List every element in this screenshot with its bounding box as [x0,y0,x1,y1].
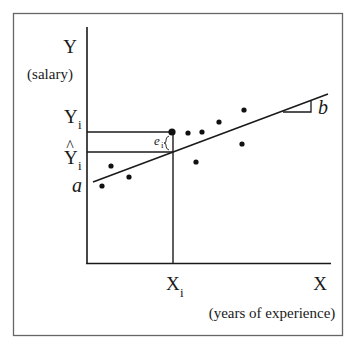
observed-point-i [168,128,175,135]
predicted-y-label: Y [64,147,78,168]
predicted-y-subscript: i [78,158,82,173]
data-point [239,141,244,146]
data-point [199,129,204,134]
x-axis-sublabel: (years of experience) [209,305,336,322]
data-point [193,159,198,164]
data-point [99,183,104,188]
data-point [126,174,131,179]
observed-y-label: Y [64,106,78,127]
data-point [108,163,113,168]
data-point [241,107,246,112]
x-axis-label: X [313,273,327,294]
residual-subscript: i [161,140,164,150]
slope-label: b [318,96,328,118]
observed-y-subscript: i [78,117,82,132]
data-point [185,130,190,135]
intercept-label: a [72,174,82,196]
regression-line [93,94,328,182]
residual-brace [164,136,169,150]
residual-label: e [154,133,160,148]
regression-diagram: Y (salary) X (years of experience) b a Y… [0,0,354,351]
data-point [216,119,221,124]
y-axis-label: Y [63,36,77,57]
x-value-subscript: i [180,285,184,300]
x-value-label: X [166,273,180,294]
y-axis-sublabel: (salary) [27,66,73,83]
